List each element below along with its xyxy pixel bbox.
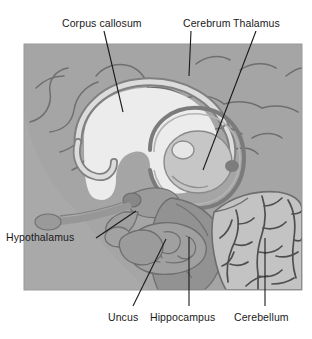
brain-anatomy-diagram xyxy=(0,0,312,339)
label-corpus-callosum: Corpus callosum xyxy=(62,17,142,29)
label-hypothalamus: Hypothalamus xyxy=(6,231,74,243)
label-thalamus: Thalamus xyxy=(233,17,280,29)
label-cerebellum: Cerebellum xyxy=(234,311,289,323)
label-uncus: Uncus xyxy=(108,311,138,323)
label-cerebrum: Cerebrum xyxy=(183,17,230,29)
cerebellum-structure xyxy=(212,192,302,290)
label-hippocampus: Hippocampus xyxy=(150,311,215,323)
